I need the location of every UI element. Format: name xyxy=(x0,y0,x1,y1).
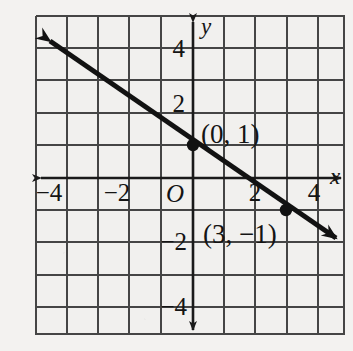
x-tick-label-2: 2 xyxy=(249,179,262,206)
x-tick-label-4: 4 xyxy=(308,179,321,206)
y-tick-label-neg2: −2 xyxy=(160,228,187,255)
data-point-0-1 xyxy=(187,139,199,151)
x-axis-name: x xyxy=(329,164,341,189)
y-axis-name: y xyxy=(199,14,212,39)
point-label-0-1: (0, 1) xyxy=(201,119,259,149)
origin-label: O xyxy=(166,180,184,207)
y-tick-label-2: 2 xyxy=(173,90,186,117)
coordinate-plane-figure: y x 4 2 −2 −4 −4 −2 2 4 O (0, 1) (3, −1) xyxy=(0,0,353,351)
y-tick-label-neg4: −4 xyxy=(160,293,187,320)
data-point-3-neg1 xyxy=(280,204,292,216)
point-label-3-neg1: (3, −1) xyxy=(203,219,277,249)
x-tick-label-neg2: −2 xyxy=(104,179,131,206)
graph-svg: y x 4 2 −2 −4 −4 −2 2 4 O (0, 1) (3, −1) xyxy=(0,0,353,351)
y-tick-label-4: 4 xyxy=(173,35,186,62)
x-tick-label-neg4: −4 xyxy=(36,179,63,206)
